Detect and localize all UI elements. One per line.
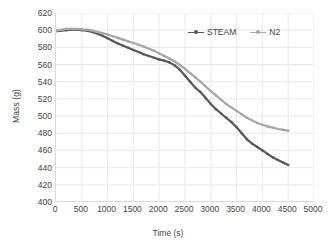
series-marker-steam — [137, 51, 140, 54]
series-marker-steam — [261, 149, 264, 152]
x-tick-label-0: 0 — [53, 205, 58, 214]
legend-marker-icon-n2 — [250, 29, 266, 36]
series-marker-n2 — [271, 126, 274, 129]
series-marker-n2 — [137, 44, 140, 47]
x-tick-label-2500: 2500 — [175, 205, 194, 214]
x-axis-title: Time (s) — [0, 228, 336, 238]
series-marker-steam — [117, 42, 120, 45]
series-marker-steam — [277, 159, 280, 162]
y-tick-label-540: 540 — [26, 77, 52, 86]
series-marker-n2 — [112, 35, 115, 38]
series-marker-n2 — [70, 28, 73, 31]
series-marker-n2 — [86, 29, 89, 32]
series-marker-steam — [230, 121, 233, 124]
series-marker-n2 — [153, 50, 156, 53]
series-line-n2 — [56, 29, 288, 131]
series-marker-steam — [127, 47, 129, 50]
y-axis-title: Mass (g) — [8, 0, 24, 212]
series-marker-steam — [112, 40, 115, 43]
series-marker-n2 — [122, 38, 125, 41]
series-marker-steam — [220, 112, 223, 115]
series-marker-n2 — [65, 28, 68, 31]
series-marker-n2 — [225, 103, 228, 106]
series-marker-steam — [204, 97, 207, 100]
plot-area — [55, 13, 313, 202]
legend-item-n2[interactable]: N2 — [250, 27, 280, 37]
series-marker-steam — [189, 80, 192, 83]
x-axis-title-label: Time (s) — [153, 228, 184, 238]
series-marker-steam — [148, 55, 151, 58]
series-marker-n2 — [251, 119, 254, 122]
series-canvas — [56, 13, 314, 202]
legend-label: N2 — [269, 27, 280, 37]
series-marker-n2 — [60, 29, 63, 32]
series-line-steam — [56, 30, 288, 165]
series-marker-steam — [235, 126, 238, 129]
series-marker-n2 — [168, 57, 171, 60]
series-marker-n2 — [163, 55, 166, 58]
x-tick-label-1000: 1000 — [97, 205, 116, 214]
chart-container: Mass (g) 4004204404604805005205405605806… — [0, 0, 336, 248]
x-tick-label-500: 500 — [74, 205, 88, 214]
series-marker-n2 — [101, 32, 104, 35]
y-tick-label-420: 420 — [26, 181, 52, 190]
series-marker-steam — [163, 59, 166, 62]
series-marker-n2 — [96, 31, 99, 34]
series-marker-steam — [266, 153, 269, 156]
series-marker-n2 — [266, 125, 269, 128]
series-marker-steam — [282, 161, 285, 164]
series-marker-n2 — [210, 90, 213, 93]
legend-item-steam[interactable]: STEAM — [188, 27, 236, 37]
x-tick-label-3000: 3000 — [200, 205, 219, 214]
series-marker-n2 — [189, 72, 192, 75]
series-marker-steam — [184, 74, 187, 77]
series-marker-n2 — [179, 64, 182, 67]
series-marker-n2 — [127, 40, 129, 43]
series-marker-steam — [256, 146, 258, 149]
series-marker-steam — [241, 132, 244, 135]
y-tick-label-580: 580 — [26, 43, 52, 52]
series-marker-steam — [153, 56, 156, 59]
series-marker-steam — [225, 117, 228, 120]
series-marker-n2 — [230, 106, 233, 109]
y-tick-label-560: 560 — [26, 60, 52, 69]
series-marker-n2 — [261, 123, 264, 126]
series-marker-steam — [210, 103, 213, 106]
series-marker-n2 — [277, 128, 280, 131]
y-tick-label-480: 480 — [26, 129, 52, 138]
series-marker-steam — [173, 64, 176, 67]
series-marker-n2 — [204, 85, 207, 88]
series-marker-n2 — [106, 33, 109, 36]
y-axis-tick-labels: 400420440460480500520540560580600620 — [24, 0, 52, 248]
series-marker-n2 — [91, 29, 94, 32]
series-marker-steam — [194, 86, 197, 89]
series-marker-steam — [122, 44, 125, 47]
y-tick-label-600: 600 — [26, 26, 52, 35]
x-tick-label-2000: 2000 — [149, 205, 168, 214]
series-marker-n2 — [148, 47, 151, 50]
series-marker-n2 — [256, 122, 258, 125]
y-tick-label-460: 460 — [26, 146, 52, 155]
y-tick-label-520: 520 — [26, 95, 52, 104]
series-marker-steam — [142, 53, 145, 56]
legend-label: STEAM — [207, 27, 236, 37]
series-marker-n2 — [142, 45, 145, 48]
series-marker-steam — [132, 49, 135, 52]
series-marker-steam — [199, 91, 202, 94]
series-marker-n2 — [75, 28, 78, 31]
series-marker-steam — [106, 37, 109, 40]
series-marker-steam — [246, 138, 249, 141]
y-tick-label-620: 620 — [26, 9, 52, 18]
series-marker-steam — [287, 164, 290, 167]
y-tick-label-500: 500 — [26, 112, 52, 121]
series-marker-n2 — [81, 28, 84, 31]
series-marker-n2 — [184, 68, 187, 71]
series-marker-n2 — [246, 117, 249, 120]
series-marker-steam — [271, 156, 274, 159]
chart-legend: STEAMN2 — [188, 27, 280, 37]
series-marker-steam — [251, 142, 254, 145]
y-axis-title-label: Mass (g) — [11, 89, 21, 123]
series-marker-n2 — [220, 99, 223, 102]
series-marker-steam — [168, 61, 171, 64]
series-marker-n2 — [158, 52, 161, 55]
